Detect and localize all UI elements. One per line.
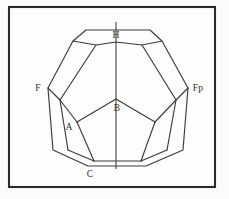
dodecahedron-figure: H F Fp B A C bbox=[0, 0, 229, 199]
figure-canvas: H F Fp B A C bbox=[0, 0, 229, 199]
label-C: C bbox=[87, 169, 94, 179]
label-B: B bbox=[114, 103, 121, 113]
label-A: A bbox=[65, 122, 72, 132]
label-Fp: Fp bbox=[193, 83, 204, 93]
label-F: F bbox=[35, 83, 41, 93]
label-H: H bbox=[112, 30, 119, 40]
